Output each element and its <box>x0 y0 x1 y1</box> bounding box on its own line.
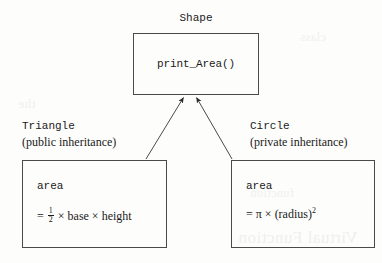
circle-formula-exponent: 2 <box>312 206 316 215</box>
derived-class-box-circle: area = π × (radius)2 <box>231 160 375 248</box>
triangle-formula-equals: = <box>37 209 44 223</box>
derived-class-name-circle: Circle <box>250 118 348 134</box>
derived-class-label-circle: Circle (private inheritance) <box>250 118 348 150</box>
triangle-formula-rest: × base × height <box>58 209 132 223</box>
inheritance-arrow-circle <box>197 98 233 160</box>
one-half-fraction: 1 2 <box>48 207 54 225</box>
inheritance-diagram: Virtual Function the function class Shap… <box>0 0 382 263</box>
fraction-denominator: 2 <box>48 215 54 224</box>
inheritance-note-triangle: (public inheritance) <box>22 134 116 150</box>
circle-box-body: area = π × (radius)2 <box>246 179 316 221</box>
triangle-box-body: area = 1 2 × base × height <box>37 179 132 225</box>
circle-area-formula: = π × (radius)2 <box>246 207 316 221</box>
circle-formula-radius: (radius) <box>275 207 312 221</box>
base-class-box: print_Area() <box>133 33 259 95</box>
scan-bleed-artifact: class <box>300 30 326 45</box>
base-class-method: print_Area() <box>134 58 258 70</box>
inheritance-note-circle: (private inheritance) <box>250 134 348 150</box>
circle-formula-equals: = <box>246 207 253 221</box>
circle-attribute-name: area <box>246 179 316 193</box>
base-class-name: Shape <box>133 10 259 26</box>
inheritance-arrow-triangle <box>146 98 184 160</box>
scan-bleed-artifact: the <box>18 96 35 112</box>
circle-formula-pi: π <box>256 207 262 221</box>
fraction-numerator: 1 <box>48 207 54 215</box>
triangle-area-formula: = 1 2 × base × height <box>37 207 132 225</box>
base-class-label: Shape <box>133 10 259 26</box>
triangle-attribute-name: area <box>37 179 132 193</box>
derived-class-label-triangle: Triangle (public inheritance) <box>22 118 116 150</box>
derived-class-box-triangle: area = 1 2 × base × height <box>22 160 167 248</box>
derived-class-name-triangle: Triangle <box>22 118 116 134</box>
circle-formula-times: × <box>265 207 272 221</box>
